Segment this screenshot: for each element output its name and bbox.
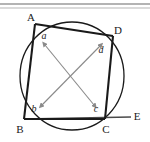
geometry-figure: A D B C E a b c d xyxy=(0,0,150,142)
angle-label-c: c xyxy=(94,103,99,114)
side-dc xyxy=(105,36,113,119)
vertex-label-b: B xyxy=(16,123,23,135)
arrow-a-to-c xyxy=(45,45,94,105)
vertex-label-d: D xyxy=(114,24,122,36)
opposite-angle-arrows xyxy=(42,45,100,105)
arrow-b-to-d xyxy=(42,46,100,105)
vertex-label-a: A xyxy=(27,11,35,23)
cyclic-quadrilateral-diagram: A D B C E a b c d xyxy=(0,0,150,142)
vertex-label-c: C xyxy=(102,123,109,135)
top-rules-group xyxy=(0,4,150,8)
side-ad xyxy=(35,24,113,36)
angle-label-a: a xyxy=(42,30,47,41)
vertex-label-e: E xyxy=(134,110,141,122)
angle-label-b: b xyxy=(32,103,37,114)
angle-label-d: d xyxy=(99,44,105,55)
quadrilateral-abcd xyxy=(24,24,113,119)
angle-labels-group: a b c d xyxy=(32,30,105,114)
